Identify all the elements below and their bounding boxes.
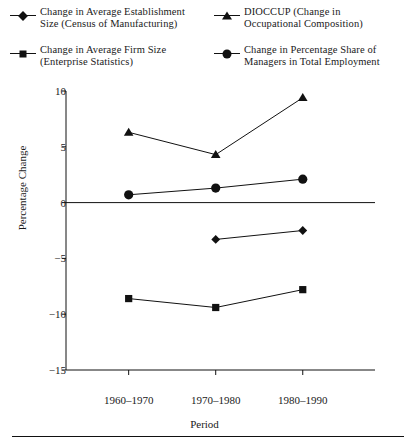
chart-series [125, 286, 306, 311]
y-tick-label: −10 [32, 308, 66, 320]
diamond-marker-icon [10, 10, 36, 21]
x-tick-label: 1980–1990 [258, 394, 348, 406]
legend-line-1: Change in Average Establishment [40, 6, 185, 17]
data-point-marker [211, 235, 220, 244]
data-point-marker [212, 304, 219, 311]
legend-line-1: DIOCCUP (Change in [244, 6, 341, 17]
chart-legend: Change in Average Establishment Size (Ce… [0, 4, 409, 78]
legend-line-2: (Enterprise Statistics) [40, 56, 133, 67]
legend-line-1: Change in Percentage Share of [244, 44, 376, 55]
x-axis-ticks: 1960–19701970–19801980–1990 [0, 388, 409, 422]
legend-label-firm-size: Change in Average Firm Size (Enterprise … [40, 44, 166, 68]
legend-item-dioccup: DIOCCUP (Change in Occupational Composit… [214, 6, 409, 30]
data-point-marker [299, 286, 306, 293]
circle-marker-icon [214, 48, 240, 59]
legend-line-2: Size (Census of Manufacturing) [40, 18, 177, 29]
legend-item-firm-size: Change in Average Firm Size (Enterprise … [10, 44, 215, 68]
x-tick-label: 1970–1980 [171, 394, 261, 406]
data-point-marker [298, 226, 307, 235]
legend-item-manager-share: Change in Percentage Share of Managers i… [214, 44, 409, 68]
footer-rule [12, 436, 404, 437]
data-point-marker [125, 295, 132, 302]
data-point-marker [298, 175, 307, 184]
x-axis-label: Period [0, 418, 409, 430]
legend-label-establishment-size: Change in Average Establishment Size (Ce… [40, 6, 185, 30]
y-axis-ticks: 1050−5−10−15 [0, 78, 66, 388]
data-point-marker [298, 93, 308, 101]
data-point-marker [211, 183, 220, 192]
legend-label-manager-share: Change in Percentage Share of Managers i… [244, 44, 380, 68]
chart-series [211, 226, 307, 244]
y-tick-label: 10 [32, 85, 66, 97]
y-axis-label: Percentage Change [16, 128, 28, 248]
chart-plot-area: 1050−5−10−15 Percentage Change [0, 78, 409, 388]
chart-series [124, 175, 307, 200]
legend-line-2: Managers in Total Employment [244, 56, 380, 67]
chart-series [124, 93, 308, 158]
legend-item-establishment-size: Change in Average Establishment Size (Ce… [10, 6, 215, 30]
x-tick-label: 1960–1970 [84, 394, 174, 406]
square-marker-icon [10, 48, 36, 59]
data-point-marker [124, 190, 133, 199]
y-tick-label: 5 [32, 141, 66, 153]
y-tick-label: −15 [32, 364, 66, 376]
legend-line-1: Change in Average Firm Size [40, 44, 166, 55]
y-tick-label: −5 [32, 252, 66, 264]
legend-line-2: Occupational Composition) [244, 18, 363, 29]
data-point-marker [124, 128, 134, 136]
y-tick-label: 0 [32, 197, 66, 209]
triangle-marker-icon [214, 10, 240, 21]
legend-label-dioccup: DIOCCUP (Change in Occupational Composit… [244, 6, 363, 30]
